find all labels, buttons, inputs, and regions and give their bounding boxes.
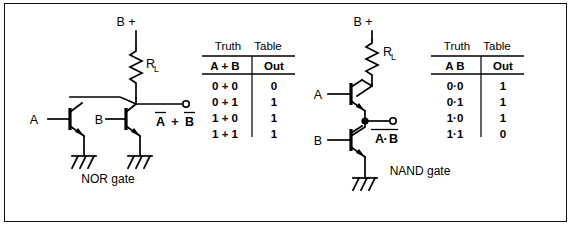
nor-table-cell-inputs: 1 + 1 (212, 128, 239, 140)
nor-table-cell-out: 1 (271, 128, 278, 140)
nand-table-row: 0·0 1 (447, 80, 507, 92)
nand-resistor-subscript: L (391, 52, 396, 62)
nor-q1-emitter-arrow (75, 128, 84, 136)
nor-table-cell-inputs: 0 + 0 (212, 80, 238, 92)
nor-table-cell-inputs: 0 + 1 (212, 96, 239, 108)
nor-ground-1 (72, 156, 96, 168)
nand-table-cell-inputs: 0·0 (447, 80, 464, 92)
nand-q1-collector-join (362, 80, 372, 86)
nand-input-a-label: A (314, 88, 323, 102)
nor-table-cell-inputs: 1 + 0 (212, 112, 238, 124)
nor-table-row: 1 + 1 1 (212, 128, 278, 140)
nor-output-operator: + (171, 115, 178, 129)
nor-load-resistor (130, 48, 142, 98)
nor-collector-rail (70, 97, 136, 104)
nand-table-row: 0·1 1 (447, 96, 507, 108)
nor-output-operand-b: B (185, 115, 194, 129)
nand-output-operator: · (384, 132, 388, 146)
nor-gate-circuit: B + R L (30, 15, 195, 186)
nand-table-cell-out: 1 (500, 112, 507, 124)
nand-table-cell-inputs: 1·0 (447, 112, 464, 124)
nand-table-col-header-inputs: A B (445, 60, 464, 72)
nand-q1-collector (351, 80, 362, 87)
nor-input-b-label: B (95, 113, 103, 127)
nand-table-col-header-out: Out (493, 60, 513, 72)
nor-supply-label: B + (116, 15, 135, 29)
nand-table-cell-inputs: 1·1 (447, 128, 464, 140)
nand-output-operand-b: B (389, 132, 398, 146)
nand-supply-label: B + (353, 15, 372, 29)
nand-input-b-label: B (314, 134, 322, 148)
nor-resistor-subscript: L (154, 64, 159, 74)
nand-table-cell-out: 1 (500, 80, 507, 92)
nand-transistor-q1 (328, 80, 365, 121)
nand-truth-table: Truth Table A B Out 0·0 1 0·1 1 1·0 1 1·… (431, 40, 524, 140)
circuit-diagram: B + R L (0, 0, 573, 227)
nand-table-row: 1·1 0 (447, 128, 507, 140)
nor-transistor-q1 (48, 103, 84, 156)
nor-table-col-header-out: Out (264, 60, 284, 72)
nand-gate-caption: NAND gate (390, 164, 451, 178)
nand-q1-emitter-arrow (356, 103, 365, 111)
nor-gate-caption: NOR gate (81, 172, 135, 186)
nor-table-cell-out: 1 (271, 96, 278, 108)
nand-ground (353, 178, 377, 190)
nor-output-terminal (183, 101, 189, 107)
nor-table-row: 0 + 0 0 (212, 80, 277, 92)
nand-q2-emitter-arrow (356, 149, 365, 157)
nand-transistor-q2 (328, 126, 365, 178)
nand-output-terminal (390, 118, 396, 124)
nand-collector-link (357, 84, 372, 96)
nor-table-cell-out: 1 (271, 112, 278, 124)
figure-canvas: B + R L (0, 0, 573, 227)
nor-table-row: 0 + 1 1 (212, 96, 278, 108)
nor-input-a-label: A (30, 113, 39, 127)
nand-load-resistor (366, 40, 378, 84)
nand-output-expression: A · B (371, 130, 398, 147)
nand-table-row: 1·0 1 (447, 112, 507, 124)
nor-q2-emitter-arrow (131, 128, 140, 136)
nor-table-cell-out: 0 (271, 80, 277, 92)
nor-transistor-q2 (106, 104, 140, 156)
nor-table-title-word-1: Truth (215, 40, 241, 52)
nand-table-cell-inputs: 0·1 (447, 96, 464, 108)
nor-table-col-header-inputs: A + B (210, 60, 239, 72)
nor-output-operand-a: A (156, 115, 165, 129)
nand-gate-circuit: B + R L A (314, 15, 451, 190)
nor-ground-2 (128, 156, 152, 168)
nor-truth-table: Truth Table A + B Out 0 + 0 0 0 + 1 1 1 … (202, 40, 295, 140)
nand-table-title-word-1: Truth (444, 40, 470, 52)
nor-output-expression: A + B (155, 113, 195, 130)
nand-table-cell-out: 0 (500, 128, 506, 140)
nor-q1-collector (70, 103, 82, 112)
nand-table-title-word-2: Table (483, 40, 511, 52)
nor-table-title-word-2: Table (254, 40, 282, 52)
nor-table-row: 1 + 0 1 (212, 112, 278, 124)
nand-table-cell-out: 1 (500, 96, 507, 108)
